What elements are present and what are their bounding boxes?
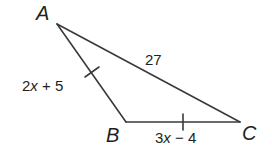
tick-mark-ab (85, 67, 99, 77)
triangle-diagram: A B C 27 2x + 5 3x − 4 (0, 0, 272, 157)
vertex-label-a: A (35, 2, 49, 24)
side-label-bc-const: − 4 (171, 129, 196, 146)
side-label-ab: 2x + 5 (22, 77, 63, 94)
side-label-bc-coef: 3 (155, 129, 163, 146)
triangle-sides (57, 24, 240, 130)
side-label-bc: 3x − 4 (155, 129, 196, 146)
side-ac (57, 24, 240, 122)
side-label-ab-coef: 2 (22, 77, 30, 94)
side-label-ac: 27 (145, 51, 162, 68)
vertex-label-c: C (242, 122, 257, 144)
side-label-ab-const: + 5 (38, 77, 63, 94)
vertex-label-b: B (106, 124, 119, 146)
